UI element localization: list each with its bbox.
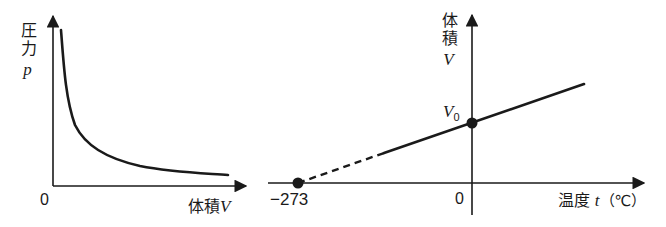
- right-y-axis-label: 体積 V: [439, 12, 458, 69]
- absolute-zero-label: −273: [270, 191, 308, 208]
- v0-intercept-point: [467, 118, 478, 129]
- left-graph: [53, 16, 246, 186]
- left-x-label-chars: 体積: [188, 197, 220, 216]
- absolute-zero-point: [293, 178, 304, 189]
- left-y-axis-label: 圧力 p: [18, 22, 37, 79]
- pv-hyperbola-curve: [61, 30, 228, 175]
- volume-temperature-line: [384, 84, 584, 153]
- right-x-axis-label: 温度 t（℃）: [558, 192, 646, 209]
- v0-label: V0: [443, 103, 460, 123]
- right-x-label-chars: 温度: [558, 191, 590, 210]
- extrapolated-dashed-line: [298, 153, 384, 183]
- right-y-label-symbol: V: [443, 50, 453, 69]
- v0-symbol: V: [443, 102, 453, 121]
- left-x-axis-label: 体積V: [188, 198, 230, 215]
- left-x-label-symbol: V: [220, 197, 230, 216]
- left-origin-label: 0: [40, 192, 49, 208]
- left-y-label-symbol: p: [23, 60, 32, 79]
- right-origin-label: 0: [455, 191, 464, 207]
- left-y-label-chars: 圧力: [18, 22, 37, 58]
- right-y-label-chars: 体積: [439, 12, 458, 48]
- right-x-label-unit: （℃）: [600, 192, 647, 210]
- v0-subscript: 0: [453, 111, 459, 123]
